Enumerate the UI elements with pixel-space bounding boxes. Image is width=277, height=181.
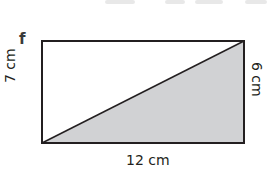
right-height-label: 6 cm — [249, 62, 265, 97]
left-height-label: 7 cm — [2, 48, 18, 83]
base-label: 12 cm — [126, 152, 170, 168]
